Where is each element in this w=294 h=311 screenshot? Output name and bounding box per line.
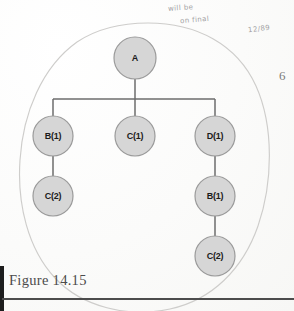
- margin-glyph: 6: [279, 68, 286, 84]
- tree-node-d1[interactable]: [195, 116, 235, 156]
- tree-node-c2-left[interactable]: [33, 176, 73, 216]
- tree-node-c2-right[interactable]: [195, 236, 235, 276]
- caption-rule-vertical: [0, 266, 4, 311]
- tree-node-b1-right[interactable]: [195, 176, 235, 216]
- tree-node-c1[interactable]: [115, 116, 155, 156]
- caption-rule-horizontal: [2, 298, 294, 300]
- tree-node-a[interactable]: [114, 37, 156, 79]
- figure-caption: Figure 14.15: [9, 272, 87, 289]
- figure-page: A B(1) C(1) D(1) C(2) B(1) C(2) will be …: [0, 0, 294, 311]
- tree-diagram: [0, 0, 294, 311]
- tree-node-b1[interactable]: [33, 116, 73, 156]
